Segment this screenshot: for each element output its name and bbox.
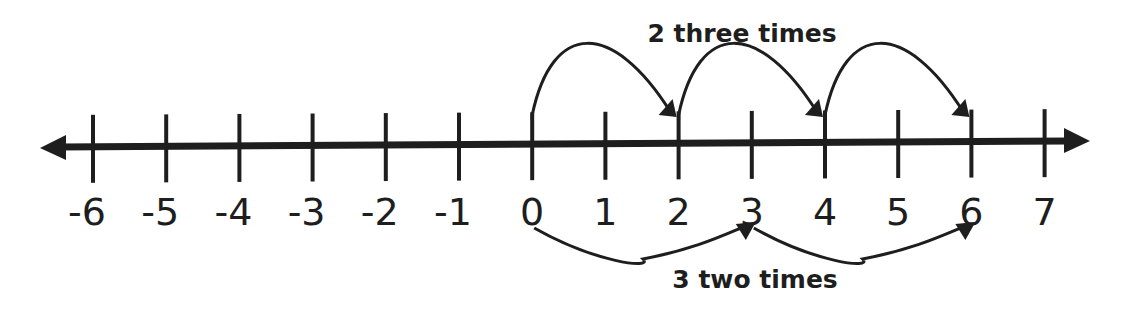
tick-label: -3	[288, 190, 326, 234]
right-arrow-icon	[1064, 128, 1090, 153]
arrowhead-icon	[951, 99, 969, 117]
tick-label: -6	[68, 190, 106, 234]
arrowhead-icon	[659, 99, 677, 117]
tick-label: -1	[434, 190, 472, 234]
tick-label: -4	[214, 190, 252, 234]
tick-label: 4	[813, 190, 837, 234]
tick-label: 2	[667, 190, 691, 234]
bottom-jump-arc	[534, 226, 746, 264]
top-caption: 2 three times	[647, 19, 836, 48]
arrowhead-icon	[805, 99, 823, 117]
tick-label: -2	[361, 190, 399, 234]
bottom-caption: 3 two times	[672, 265, 837, 294]
top-jump-arc	[825, 43, 963, 120]
number-line-diagram: -6-5-4-3-2-101234567 2 three times 3 two…	[0, 0, 1128, 315]
tick-labels: -6-5-4-3-2-101234567	[68, 190, 1057, 234]
bottom-jump-arc	[754, 226, 966, 264]
left-arrow-icon	[40, 135, 66, 160]
tick-label: -5	[141, 190, 179, 234]
tick-label: 1	[593, 190, 617, 234]
top-jump-arc	[532, 43, 670, 120]
number-line-axis	[40, 128, 1090, 160]
tick-label: 7	[1033, 190, 1057, 234]
tick-label: 0	[520, 190, 544, 234]
top-jump-arc	[679, 43, 817, 120]
tick-label: 5	[886, 190, 910, 234]
top-jump-arcs	[532, 43, 969, 120]
